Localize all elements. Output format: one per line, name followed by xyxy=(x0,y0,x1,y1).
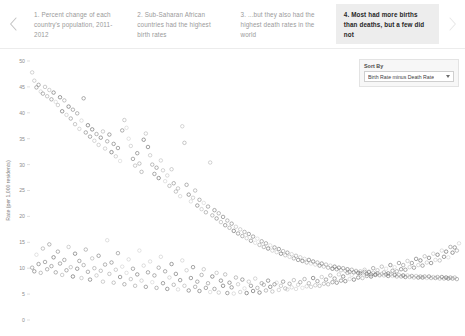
data-point[interactable] xyxy=(48,88,52,92)
data-point[interactable] xyxy=(33,79,37,83)
data-point[interactable] xyxy=(176,288,180,292)
data-point[interactable] xyxy=(434,258,438,262)
data-point[interactable] xyxy=(329,274,333,278)
data-point[interactable] xyxy=(82,263,86,267)
data-point[interactable] xyxy=(127,258,131,262)
data-point[interactable] xyxy=(112,142,116,146)
data-point[interactable] xyxy=(217,291,221,295)
data-point[interactable] xyxy=(206,281,210,285)
data-point[interactable] xyxy=(131,157,135,161)
data-point[interactable] xyxy=(73,252,77,256)
data-point[interactable] xyxy=(245,291,249,295)
data-point[interactable] xyxy=(144,285,148,289)
data-point[interactable] xyxy=(399,267,403,271)
data-point[interactable] xyxy=(191,265,195,269)
data-point[interactable] xyxy=(161,281,165,285)
data-point[interactable] xyxy=(371,266,375,270)
data-point[interactable] xyxy=(183,284,187,288)
data-point[interactable] xyxy=(50,264,54,268)
data-point[interactable] xyxy=(155,286,159,290)
data-point[interactable] xyxy=(273,246,277,250)
data-point[interactable] xyxy=(299,256,303,260)
data-point[interactable] xyxy=(344,279,348,283)
data-point[interactable] xyxy=(161,169,165,173)
data-point[interactable] xyxy=(129,277,133,281)
data-point[interactable] xyxy=(153,274,157,278)
data-point[interactable] xyxy=(43,85,47,89)
data-point[interactable] xyxy=(157,266,161,270)
data-point[interactable] xyxy=(45,267,49,271)
data-point[interactable] xyxy=(299,280,303,284)
data-point[interactable] xyxy=(99,136,103,140)
data-point[interactable] xyxy=(286,251,290,255)
data-point[interactable] xyxy=(168,184,172,188)
data-point[interactable] xyxy=(63,99,67,103)
data-point[interactable] xyxy=(249,239,253,243)
data-point[interactable] xyxy=(440,249,444,253)
data-point[interactable] xyxy=(200,207,204,211)
data-point[interactable] xyxy=(63,258,67,262)
data-point[interactable] xyxy=(419,259,423,263)
data-point[interactable] xyxy=(258,291,262,295)
data-point[interactable] xyxy=(97,254,101,258)
data-point[interactable] xyxy=(60,110,64,114)
data-point[interactable] xyxy=(120,129,124,133)
data-point[interactable] xyxy=(78,127,82,131)
data-point[interactable] xyxy=(136,273,140,277)
data-point[interactable] xyxy=(292,278,296,282)
step-item-2[interactable]: 2. Sub-Saharan African countries had the… xyxy=(129,4,232,44)
data-point[interactable] xyxy=(88,278,92,282)
data-point[interactable] xyxy=(159,159,163,163)
data-point[interactable] xyxy=(324,278,328,282)
data-point[interactable] xyxy=(234,276,238,280)
data-point[interactable] xyxy=(301,286,305,290)
data-point[interactable] xyxy=(226,219,230,223)
data-point[interactable] xyxy=(247,280,251,284)
data-point[interactable] xyxy=(185,183,189,187)
data-point[interactable] xyxy=(442,255,446,258)
data-point[interactable] xyxy=(95,274,99,278)
data-point[interactable] xyxy=(144,132,148,136)
data-point[interactable] xyxy=(290,286,294,290)
data-point[interactable] xyxy=(241,234,245,238)
data-point[interactable] xyxy=(116,146,120,150)
data-point[interactable] xyxy=(303,257,307,261)
data-point[interactable] xyxy=(30,266,34,270)
data-point[interactable] xyxy=(101,280,105,284)
data-point[interactable] xyxy=(389,263,393,267)
data-point[interactable] xyxy=(196,280,200,284)
data-point[interactable] xyxy=(189,200,193,204)
data-point[interactable] xyxy=(163,270,167,274)
data-point[interactable] xyxy=(277,288,281,292)
data-point[interactable] xyxy=(230,222,234,226)
data-point[interactable] xyxy=(41,247,45,251)
data-point[interactable] xyxy=(451,251,455,255)
data-point[interactable] xyxy=(198,198,202,202)
data-point[interactable] xyxy=(33,270,37,274)
data-point[interactable] xyxy=(41,92,45,96)
data-point[interactable] xyxy=(105,238,109,242)
data-point[interactable] xyxy=(361,276,365,280)
data-point[interactable] xyxy=(217,212,221,216)
data-point[interactable] xyxy=(159,255,163,258)
data-point[interactable] xyxy=(401,263,405,267)
data-point[interactable] xyxy=(93,266,97,270)
data-point[interactable] xyxy=(314,284,318,288)
data-point[interactable] xyxy=(294,254,298,258)
data-point[interactable] xyxy=(99,269,103,273)
data-point[interactable] xyxy=(215,217,219,221)
data-point[interactable] xyxy=(84,248,88,252)
data-point[interactable] xyxy=(142,264,146,268)
data-point[interactable] xyxy=(172,182,176,186)
data-point[interactable] xyxy=(108,272,112,276)
data-point[interactable] xyxy=(155,166,159,170)
data-point[interactable] xyxy=(337,273,341,277)
data-point[interactable] xyxy=(84,131,88,135)
data-point[interactable] xyxy=(148,260,152,264)
data-point[interactable] xyxy=(230,286,234,290)
data-point[interactable] xyxy=(146,145,150,149)
data-point[interactable] xyxy=(163,179,167,183)
data-point[interactable] xyxy=(380,265,384,269)
data-point[interactable] xyxy=(228,281,232,285)
data-point[interactable] xyxy=(331,280,335,284)
